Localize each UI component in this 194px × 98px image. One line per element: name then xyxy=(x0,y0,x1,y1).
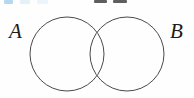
venn-figure xyxy=(0,0,194,98)
set-label-b: B xyxy=(170,21,183,42)
venn-diagram-screenshot: A B xyxy=(0,0,194,98)
left-circle xyxy=(30,17,104,91)
right-circle xyxy=(90,17,164,91)
set-label-a: A xyxy=(9,21,22,42)
